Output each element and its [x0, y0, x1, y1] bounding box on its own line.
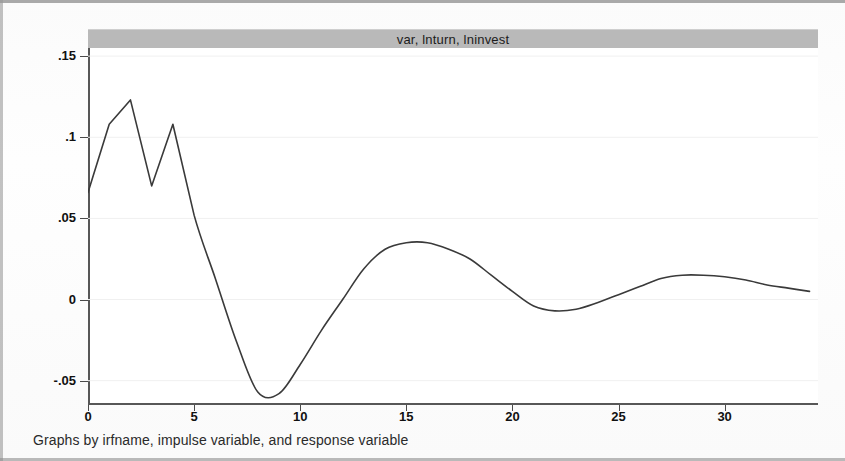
- y-tick: .15: [20, 50, 76, 62]
- y-tick-mark: [80, 381, 88, 382]
- y-tick-label: .15: [58, 50, 76, 62]
- y-tick-label: .05: [58, 212, 76, 224]
- y-tick: .05: [20, 212, 76, 224]
- y-tick-mark: [80, 137, 88, 138]
- y-tick: .1: [20, 131, 76, 143]
- y-tick-mark: [80, 218, 88, 219]
- x-tick-label: 10: [280, 409, 320, 424]
- stata-irf-graph-figure: var, lnturn, lninvest .15.1.050-.05 0510…: [0, 0, 845, 461]
- y-tick-mark: [80, 300, 88, 301]
- y-tick-label: .1: [65, 131, 76, 143]
- scan-edge-left: [0, 0, 3, 461]
- y-tick: 0: [20, 294, 76, 306]
- x-tick-label: 20: [492, 409, 532, 424]
- x-tick-label: 25: [599, 409, 639, 424]
- plot-title: var, lnturn, lninvest: [88, 30, 818, 49]
- x-tick-label: 30: [705, 409, 745, 424]
- scan-edge-top: [0, 0, 845, 3]
- y-tick-mark: [80, 56, 88, 57]
- gridlines: [88, 56, 818, 381]
- irf-line: [88, 100, 810, 398]
- y-tick-label: 0: [69, 294, 76, 306]
- y-tick: -.05: [20, 375, 76, 387]
- x-tick-label: 5: [174, 409, 214, 424]
- plot-title-bar: var, lnturn, lninvest: [88, 29, 818, 50]
- irf-line-chart: [88, 48, 818, 405]
- y-tick-label: -.05: [54, 375, 76, 387]
- series-group: [88, 100, 810, 398]
- figure-caption: Graphs by irfname, impulse variable, and…: [33, 432, 408, 448]
- x-tick-label: 0: [68, 409, 108, 424]
- x-tick-label: 15: [386, 409, 426, 424]
